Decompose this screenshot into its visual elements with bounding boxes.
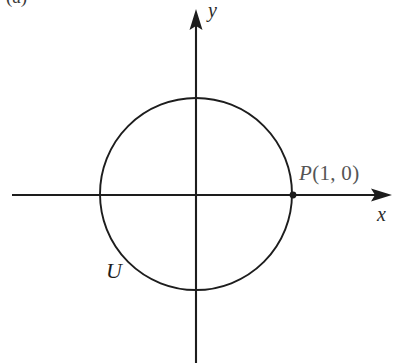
unit-circle-label: U xyxy=(106,260,122,282)
point-p-marker xyxy=(290,192,297,199)
x-axis-label: x xyxy=(377,204,386,224)
point-p-label: P(1, 0) xyxy=(299,163,359,184)
figure-canvas: (a) y x U P(1, 0) xyxy=(0,0,409,363)
y-axis-label: y xyxy=(208,0,217,20)
point-p-letter: P xyxy=(299,161,312,185)
point-p-coords: (1, 0) xyxy=(312,161,359,185)
figure-caption: (a) xyxy=(6,0,27,6)
